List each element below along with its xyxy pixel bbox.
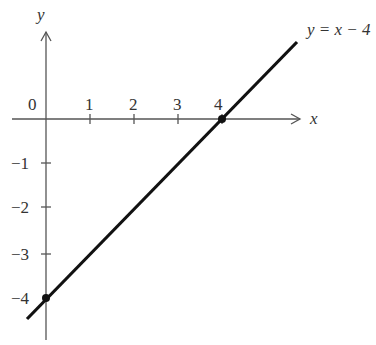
y-tick-label-neg3: −3 <box>11 245 29 264</box>
y-axis-label: y <box>35 5 45 24</box>
y-intercept-point <box>42 294 50 302</box>
graph: 0 1 2 3 4 −1 −2 −3 −4 x y y = x − 4 <box>0 0 376 345</box>
x-axis-label: x <box>309 109 318 128</box>
equation-label: y = x − 4 <box>305 20 371 39</box>
x-tick-label-3: 3 <box>173 95 182 114</box>
x-tick-label-2: 2 <box>129 95 138 114</box>
x-tick-label-1: 1 <box>85 95 94 114</box>
x-tick-label-4: 4 <box>214 95 223 114</box>
y-tick-label-neg2: −2 <box>11 198 29 217</box>
line-y-equals-x-minus-4 <box>27 42 297 319</box>
y-tick-label-neg4: −4 <box>11 289 30 308</box>
x-intercept-point <box>218 115 226 123</box>
origin-label: 0 <box>28 95 37 114</box>
y-tick-label-neg1: −1 <box>11 154 29 173</box>
